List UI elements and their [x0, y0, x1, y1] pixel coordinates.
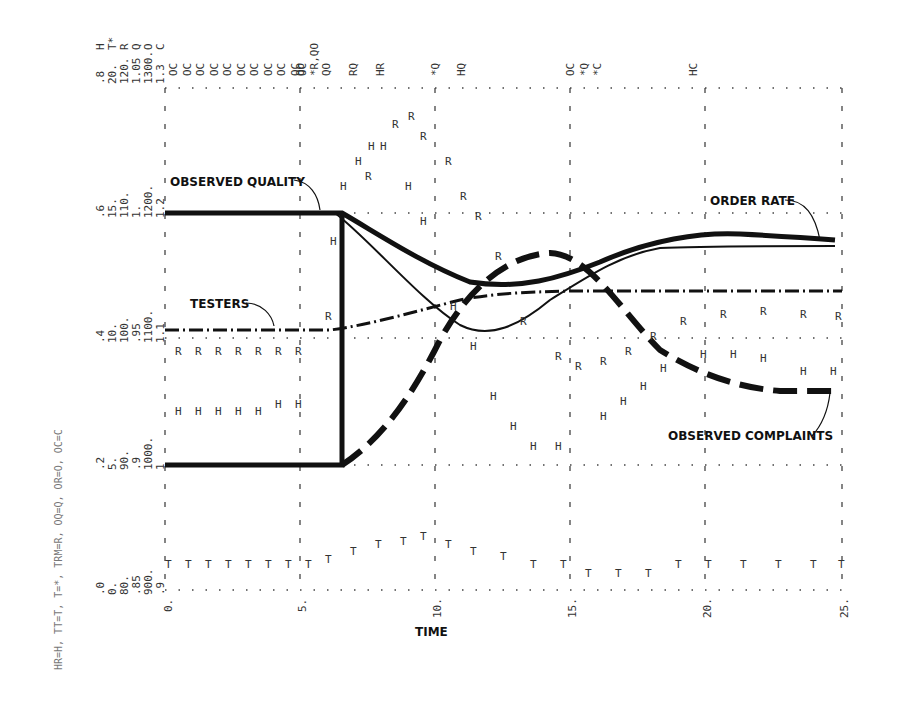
svg-text:R: R	[325, 310, 332, 323]
svg-text:H: H	[405, 180, 412, 193]
svg-text:1.1: 1.1	[154, 323, 167, 343]
svg-text:H: H	[295, 398, 302, 411]
svg-text:T: T	[285, 558, 292, 571]
svg-text:T: T	[185, 558, 192, 571]
svg-text:T: T	[445, 538, 452, 551]
svg-text:T: T	[705, 558, 712, 571]
svg-text:T: T	[675, 558, 682, 571]
svg-text:10.: 10.	[431, 598, 444, 618]
svg-text:OC: OC	[221, 63, 234, 76]
svg-text:OC: OC	[275, 63, 288, 76]
svg-text:1: 1	[154, 463, 167, 470]
svg-text:H: H	[355, 155, 362, 168]
svg-text:H: H	[660, 362, 667, 375]
svg-text:0.: 0.	[162, 599, 175, 612]
x-axis-label: TIME	[415, 625, 448, 639]
svg-text:R: R	[365, 170, 372, 183]
svg-text:R: R	[235, 345, 242, 358]
svg-text:T: T	[420, 530, 427, 543]
svg-text:T: T	[838, 558, 845, 571]
observed-quality-label: OBSERVED QUALITY	[170, 175, 305, 189]
svg-text:OC: OC	[208, 63, 221, 76]
svg-text:H: H	[255, 405, 262, 418]
svg-text:C: C	[154, 43, 167, 50]
svg-text:R: R	[555, 350, 562, 363]
y-scale-top: .8 20. 120. 1.05 1300. 1.3	[94, 51, 167, 84]
svg-text:H: H	[730, 348, 737, 361]
svg-text:R: R	[195, 345, 202, 358]
svg-text:.9: .9	[154, 582, 167, 595]
svg-text:T: T	[530, 558, 537, 571]
observed-complaints-label: OBSERVED COMPLAINTS	[668, 429, 833, 443]
svg-text:H: H	[420, 215, 427, 228]
svg-text:HC: HC	[687, 63, 700, 76]
svg-text:H: H	[800, 365, 807, 378]
svg-text:R: R	[575, 360, 582, 373]
svg-text:R: R	[720, 308, 727, 321]
svg-text:R: R	[215, 345, 222, 358]
svg-text:T: T	[645, 567, 652, 580]
svg-text:1.3: 1.3	[154, 64, 167, 84]
svg-text:OC: OC	[181, 63, 194, 76]
svg-text:T: T	[375, 538, 382, 551]
svg-text:R: R	[600, 355, 607, 368]
svg-text:H: H	[340, 180, 347, 193]
svg-text:OC: OC	[564, 63, 577, 76]
svg-text:R: R	[460, 190, 467, 203]
top-markers: OC OC OC OC OC OC OC OC OC OC OC QO *R,Q…	[167, 43, 700, 76]
svg-text:H: H	[470, 340, 477, 353]
y-scale-row3: .2 5. 90. .9 1000. 1	[94, 437, 167, 470]
svg-text:H: H	[380, 140, 387, 153]
svg-text:T: T	[165, 558, 172, 571]
training-chars: RRRRRRR RRRRRRRR RRRRRRRRRRRR	[175, 110, 842, 373]
svg-text:R: R	[835, 310, 842, 323]
svg-text:QO: QO	[294, 63, 307, 76]
svg-text:R: R	[392, 118, 399, 131]
total-testers-chars: TTTTTTTT TTTTT TTTTT TTTTTTTTT	[165, 530, 845, 580]
svg-text:H: H	[368, 140, 375, 153]
order-rate-label: ORDER RATE	[710, 194, 795, 208]
svg-text:H: H	[235, 405, 242, 418]
svg-text:R: R	[420, 130, 427, 143]
svg-text:20.: 20.	[701, 598, 714, 618]
svg-text:5.: 5.	[296, 599, 309, 612]
svg-text:T: T	[205, 558, 212, 571]
svg-text:H: H	[700, 348, 707, 361]
svg-text:H: H	[215, 405, 222, 418]
svg-text:T: T	[350, 545, 357, 558]
svg-text:T: T	[225, 558, 232, 571]
svg-text:R: R	[175, 345, 182, 358]
svg-text:OC: OC	[262, 63, 275, 76]
svg-text:1.2: 1.2	[154, 198, 167, 218]
svg-text:H: H	[620, 395, 627, 408]
svg-text:T: T	[325, 553, 332, 566]
svg-text:*C: *C	[591, 63, 604, 76]
svg-text:T: T	[305, 558, 312, 571]
testers-arrow	[246, 303, 274, 326]
svg-text:H: H	[490, 390, 497, 403]
svg-text:R: R	[625, 345, 632, 358]
svg-text:T: T	[400, 535, 407, 548]
svg-text:H: H	[450, 300, 457, 313]
svg-text:H: H	[510, 420, 517, 433]
svg-text:R: R	[650, 330, 657, 343]
svg-text:R: R	[800, 308, 807, 321]
svg-text:15.: 15.	[566, 598, 579, 618]
svg-text:HR: HR	[374, 62, 387, 76]
svg-text:T: T	[615, 567, 622, 580]
svg-text:R: R	[295, 345, 302, 358]
svg-text:OC: OC	[167, 63, 180, 76]
y-scale-row1: .6 15. 110. 1. 1200. 1.2	[94, 185, 167, 218]
svg-text:H: H	[195, 405, 202, 418]
vertical-grid	[165, 88, 842, 590]
svg-text:H: H	[530, 440, 537, 453]
svg-text:QO: QO	[320, 63, 333, 76]
svg-text:T: T	[265, 558, 272, 571]
testers-line	[165, 291, 842, 330]
svg-text:R: R	[255, 345, 262, 358]
header-symbols: H T* R Q O C	[94, 37, 167, 50]
svg-text:H: H	[830, 365, 837, 378]
svg-text:T: T	[585, 567, 592, 580]
testers-label: TESTERS	[190, 297, 249, 311]
svg-text:T: T	[810, 558, 817, 571]
